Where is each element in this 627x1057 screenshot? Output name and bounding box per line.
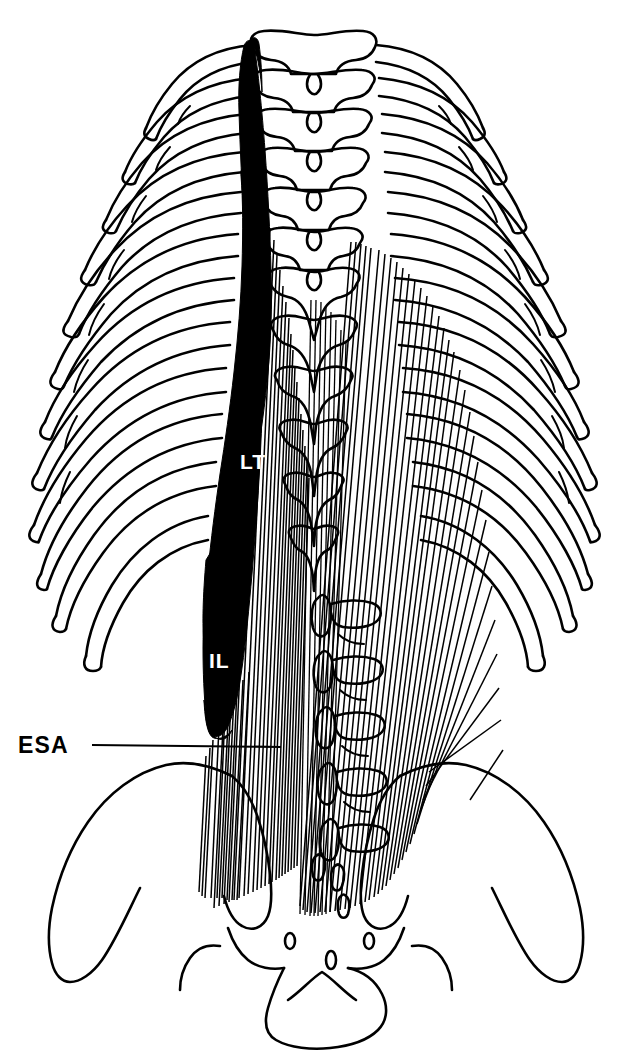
anatomical-figure: ESA LT IL bbox=[0, 0, 627, 1057]
esa-label: ESA bbox=[18, 732, 69, 758]
il-label: IL bbox=[209, 649, 230, 672]
anatomy-illustration: ESA LT IL bbox=[0, 0, 627, 1057]
lt-label: LT bbox=[240, 450, 266, 473]
